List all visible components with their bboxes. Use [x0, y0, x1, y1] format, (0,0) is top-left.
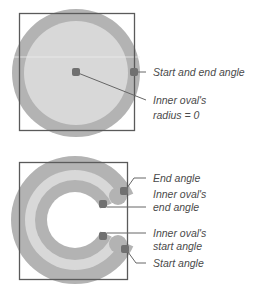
start-end-angle-handle[interactable]	[130, 68, 138, 76]
inner-start-angle-handle[interactable]	[99, 232, 107, 240]
leader-line-end-angle	[127, 178, 146, 188]
label-start-angle: Start angle	[153, 257, 204, 269]
label-inner-end-line2: end angle	[153, 201, 199, 213]
arc-oval-figure: End angle Inner oval's end angle Inner o…	[0, 145, 253, 295]
full-oval-diagram: Start and end angle Inner oval's radius …	[0, 0, 253, 145]
label-inner-oval-radius-line2: radius = 0	[153, 109, 200, 121]
inner-hole	[47, 192, 103, 248]
label-inner-end-line1: Inner oval's	[153, 188, 207, 200]
label-start-end-angle: Start and end angle	[153, 66, 245, 78]
label-inner-start-line1: Inner oval's	[153, 227, 207, 239]
full-oval-figure: Start and end angle Inner oval's radius …	[0, 0, 253, 145]
arc-oval-diagram: End angle Inner oval's end angle Inner o…	[0, 145, 253, 295]
label-inner-start-line2: start angle	[153, 240, 202, 252]
label-end-angle: End angle	[153, 172, 200, 184]
leader-line-start-angle	[128, 252, 146, 263]
label-inner-oval-radius-line1: Inner oval's	[153, 94, 207, 106]
inner-end-angle-handle[interactable]	[99, 200, 107, 208]
start-angle-handle[interactable]	[121, 245, 129, 253]
center-handle[interactable]	[72, 68, 80, 76]
end-angle-handle[interactable]	[120, 187, 128, 195]
